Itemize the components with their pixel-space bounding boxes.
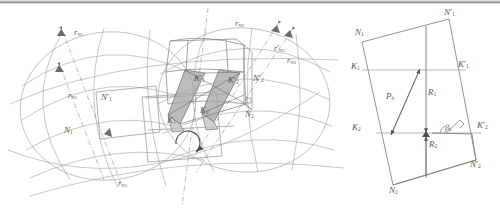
- Pb-arrow-down: [391, 69, 420, 135]
- right-panel-base-plane: N1 N′1 K1 K′1 K2 K′2 N2 N′2 Pb R1 R2: [348, 0, 500, 214]
- base-plane-quad: [362, 19, 476, 185]
- right-proj-square-mark: [246, 98, 251, 103]
- tooth-shell-top-edge: [166, 39, 244, 72]
- right-proj-corner: [246, 104, 252, 110]
- left-face-quad: [96, 86, 160, 139]
- arrowhead-N1: [104, 128, 112, 137]
- right-angle-marker: [460, 120, 464, 128]
- left-panel-3d-construction: rN1 rN1 rN1 N′1 N1 rN2 r′N2 rN2 N′2 N2 K: [0, 0, 348, 214]
- beta-arc: [440, 126, 445, 133]
- r2-arrow-caps: [422, 131, 430, 137]
- r2-cap-upper: [422, 131, 430, 137]
- right-projection-box: [244, 45, 252, 110]
- lower-facet: [393, 134, 476, 185]
- beta-angle-marks: [432, 120, 472, 134]
- left-diagram-svg: [0, 0, 348, 214]
- arrowhead-rN2-prime: [271, 25, 280, 33]
- beta-slant-ray: [446, 120, 460, 133]
- cross-arc-long-a: [8, 92, 320, 168]
- base-plane-outline: [362, 19, 476, 185]
- arrowhead-rN1-top: [57, 29, 66, 36]
- lower-facet-edges: [393, 134, 476, 185]
- Pb-dimension: [391, 69, 420, 135]
- arrowhead-rN2: [284, 30, 293, 38]
- tooth-shell-rib-b: [226, 39, 228, 71]
- arrowhead-rN1-mid: [55, 65, 64, 72]
- figure-root: rN1 rN1 rN1 N′1 N1 rN2 r′N2 rN2 N′2 N2 K: [0, 0, 500, 214]
- right-sphere-meridian-c: [292, 34, 300, 170]
- left-sphere-meridian-c: [147, 30, 166, 186]
- tooth-flank-2: [202, 70, 240, 130]
- right-diagram-svg: [348, 0, 500, 214]
- cross-arc-long-b: [10, 58, 338, 104]
